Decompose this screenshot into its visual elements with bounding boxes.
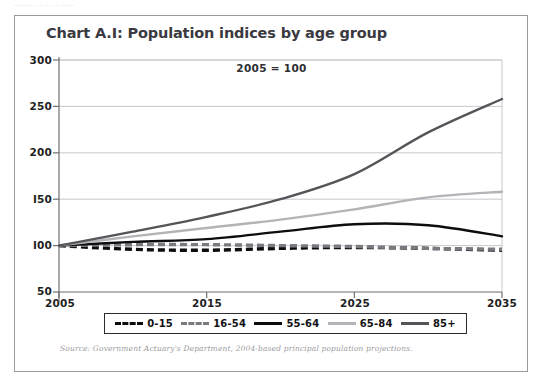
- legend-label-0-15: 0-15: [147, 318, 173, 329]
- legend-item-65-84[interactable]: 65-84: [328, 318, 393, 329]
- legend-item-85-plus[interactable]: 85+: [401, 318, 456, 329]
- legend-item-55-64[interactable]: 55-64: [254, 318, 319, 329]
- chart-legend: 0-15 16-54 55-64 65-84 85+: [104, 313, 467, 334]
- series-line-55-64: [59, 224, 502, 246]
- legend-label-55-64: 55-64: [286, 318, 319, 329]
- legend-swatch-16-54: [181, 322, 209, 325]
- legend-label-65-84: 65-84: [360, 318, 393, 329]
- legend-swatch-85-plus: [401, 322, 429, 326]
- legend-item-16-54[interactable]: 16-54: [181, 318, 246, 329]
- legend-label-85-plus: 85+: [433, 318, 456, 329]
- legend-swatch-0-15: [115, 322, 143, 325]
- source-note: Source: Government Actuary's Department,…: [60, 344, 413, 353]
- figure-page: ........ .... .. ... ..... Chart A.I: Po…: [0, 0, 543, 385]
- legend-swatch-65-84: [328, 322, 356, 325]
- series-line-85-plus: [59, 99, 502, 246]
- legend-item-0-15[interactable]: 0-15: [115, 318, 173, 329]
- legend-label-16-54: 16-54: [213, 318, 246, 329]
- legend-swatch-55-64: [254, 322, 282, 326]
